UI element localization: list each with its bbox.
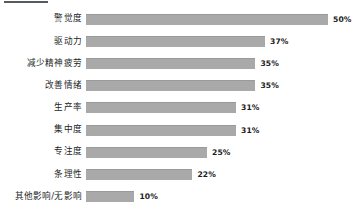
bar xyxy=(86,36,265,47)
bar-track: 31% xyxy=(86,97,360,119)
category-label: 其他影响/无影响 xyxy=(0,192,86,201)
bar xyxy=(86,191,134,202)
bar-value-label: 10% xyxy=(139,192,157,201)
bar-row: 驱动力37% xyxy=(0,30,360,52)
category-label: 减少精神疲劳 xyxy=(0,59,86,68)
category-label: 条理性 xyxy=(0,170,86,179)
category-label: 驱动力 xyxy=(0,37,86,46)
bar xyxy=(86,80,255,91)
bar-track: 37% xyxy=(86,30,360,52)
bar xyxy=(86,58,255,69)
bar-value-label: 50% xyxy=(333,15,351,24)
bar-value-label: 37% xyxy=(270,37,288,46)
bar-row: 条理性22% xyxy=(0,163,360,185)
bar-value-label: 31% xyxy=(241,103,259,112)
header-rule xyxy=(4,1,48,3)
bar-value-label: 31% xyxy=(241,126,259,135)
bar xyxy=(86,147,207,158)
bar-value-label: 35% xyxy=(260,59,278,68)
bar-value-label: 25% xyxy=(212,148,230,157)
bar-value-label: 35% xyxy=(260,81,278,90)
bar-track: 25% xyxy=(86,141,360,163)
bar-row: 改善情绪35% xyxy=(0,75,360,97)
bar-track: 35% xyxy=(86,52,360,74)
bar-row: 警觉度50% xyxy=(0,8,360,30)
bar-track: 22% xyxy=(86,163,360,185)
bar-row: 生产率31% xyxy=(0,97,360,119)
bar xyxy=(86,102,236,113)
category-label: 生产率 xyxy=(0,103,86,112)
bar-track: 31% xyxy=(86,119,360,141)
bar-row: 减少精神疲劳35% xyxy=(0,52,360,74)
bar-track: 35% xyxy=(86,75,360,97)
category-label: 集中度 xyxy=(0,125,86,134)
bar xyxy=(86,14,328,25)
bar-chart: 警觉度50%驱动力37%减少精神疲劳35%改善情绪35%生产率31%集中度31%… xyxy=(0,0,360,221)
bar xyxy=(86,169,192,180)
bar xyxy=(86,125,236,136)
category-label: 警觉度 xyxy=(0,14,86,23)
category-label: 改善情绪 xyxy=(0,81,86,90)
bar-track: 10% xyxy=(86,186,360,208)
bar-row: 专注度25% xyxy=(0,141,360,163)
bar-row: 集中度31% xyxy=(0,119,360,141)
bar-track: 50% xyxy=(86,8,360,30)
bar-value-label: 22% xyxy=(197,170,215,179)
chart-plot-area: 警觉度50%驱动力37%减少精神疲劳35%改善情绪35%生产率31%集中度31%… xyxy=(0,8,360,215)
bar-row: 其他影响/无影响10% xyxy=(0,186,360,208)
category-label: 专注度 xyxy=(0,147,86,156)
